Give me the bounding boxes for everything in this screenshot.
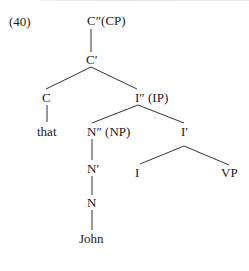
node-that: that — [37, 125, 57, 138]
edge-ibar-vp — [184, 146, 229, 165]
edge-ip-np — [92, 105, 138, 123]
edge-ibar-i — [140, 146, 184, 164]
edge-cbar-ip — [91, 67, 137, 89]
edge-ip-ibar — [138, 105, 184, 123]
node-vp: VP — [221, 166, 238, 179]
node-c: C — [42, 91, 51, 104]
node-n: N — [87, 196, 96, 209]
node-n-bar: N′ — [87, 162, 99, 175]
node-c-bar: C′ — [86, 53, 98, 66]
node-i-bar: I′ — [181, 125, 188, 138]
node-i: I — [135, 166, 139, 179]
node-ip: I″ (IP) — [135, 91, 168, 104]
node-cp: C″(CP) — [87, 14, 126, 27]
edge-cbar-c — [46, 67, 91, 89]
node-np: N″ (NP) — [87, 125, 130, 138]
node-john: John — [79, 232, 104, 245]
